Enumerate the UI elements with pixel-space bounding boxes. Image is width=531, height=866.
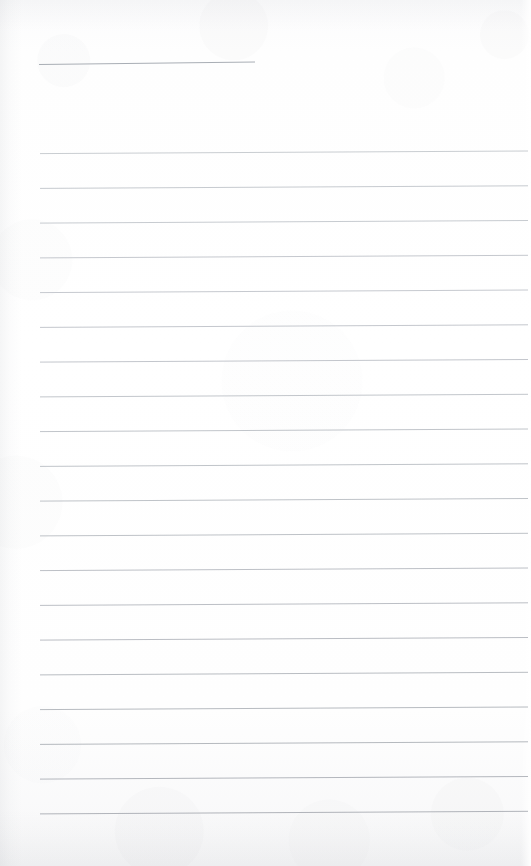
- write-line-3[interactable]: [40, 193, 528, 223]
- write-line-19[interactable]: [40, 749, 528, 779]
- write-line-13[interactable]: [40, 540, 528, 570]
- write-line-4[interactable]: [40, 227, 528, 257]
- write-line-17[interactable]: [40, 679, 528, 709]
- write-line-16[interactable]: [40, 644, 528, 674]
- scanned-page: [0, 0, 531, 866]
- write-line-10[interactable]: [40, 436, 528, 466]
- write-line-12[interactable]: [40, 505, 528, 535]
- write-line-6[interactable]: [40, 297, 528, 327]
- write-line-5[interactable]: [40, 262, 528, 292]
- write-line-11[interactable]: [40, 471, 528, 501]
- write-line-9[interactable]: [40, 401, 528, 431]
- write-line-15[interactable]: [40, 610, 528, 640]
- write-line-1[interactable]: [40, 123, 528, 153]
- header-write-area[interactable]: [39, 40, 255, 66]
- write-line-18[interactable]: [40, 714, 528, 744]
- write-line-7[interactable]: [40, 332, 528, 362]
- write-line-20[interactable]: [40, 783, 528, 813]
- write-line-2[interactable]: [40, 158, 528, 188]
- write-line-8[interactable]: [40, 366, 528, 396]
- write-line-14[interactable]: [40, 575, 528, 605]
- writing-lines-region: [0, 0, 531, 866]
